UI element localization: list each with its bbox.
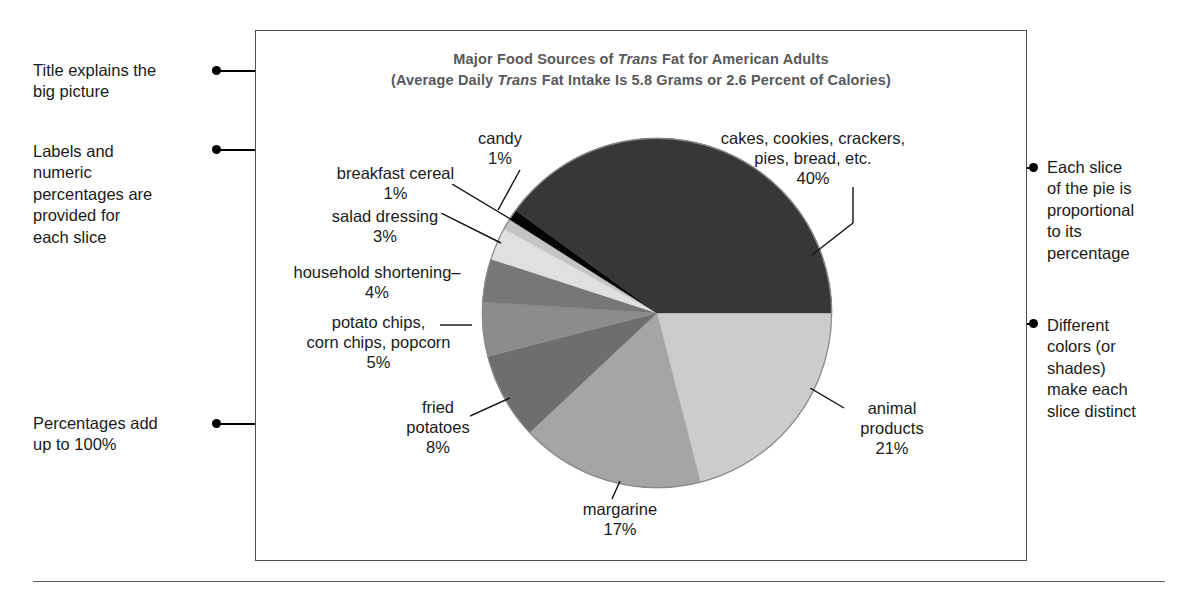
chart-title-l1-pre: Major Food Sources of [453, 51, 617, 67]
annotation-labels-and-percentages: Labels and numeric percentages are provi… [33, 141, 223, 248]
chart-title-l1-emphasis: Trans [618, 51, 658, 67]
pie-label-breakfast-cereal: breakfast cereal1% [318, 163, 473, 203]
pie-label-cakes-cookies: cakes, cookies, crackers, pies, bread, e… [683, 128, 943, 188]
pie-chart-svg [481, 137, 833, 489]
annotation-each-slice-proportional: Each slice of the pie is proportional to… [1047, 157, 1197, 264]
annotation-title-explains: Title explains the big picture [33, 60, 223, 103]
annotation-percentages-add-up: Percentages add up to 100% [33, 413, 233, 456]
pie-label-animal-products: animal products21% [832, 398, 952, 458]
chart-title-l2-pre: (Average Daily [391, 72, 497, 88]
pie-leader-potato-chips [440, 322, 474, 328]
chart-title-l2-emphasis: Trans [497, 72, 537, 88]
pie-leader-fried-potatoes [470, 396, 512, 420]
chart-title-line-1: Major Food Sources of Trans Fat for Amer… [256, 49, 1026, 70]
pie-leader-cakes-cookies [810, 187, 856, 257]
chart-title-l1-post: Fat for American Adults [658, 51, 829, 67]
annotation-different-colors: Different colors (or shades) make each s… [1047, 315, 1197, 422]
pie-chart [481, 137, 833, 489]
pie-label-margarine: margarine17% [545, 499, 695, 539]
pie-leader-animal-products [810, 388, 846, 412]
page-bottom-rule [33, 581, 1165, 582]
pie-leader-salad-dressing [441, 213, 503, 245]
chart-title: Major Food Sources of Trans Fat for Amer… [256, 49, 1026, 91]
chart-title-l2-post: Fat Intake Is 5.8 Grams or 2.6 Percent o… [537, 72, 891, 88]
pie-leader-margarine [608, 481, 626, 501]
pie-label-household-shortening: household shortening–4% [268, 262, 486, 302]
chart-title-line-2: (Average Daily Trans Fat Intake Is 5.8 G… [256, 70, 1026, 91]
